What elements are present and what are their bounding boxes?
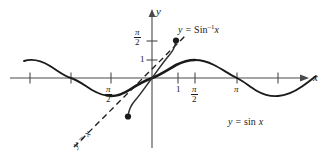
x-tick-label-neg-pi-over-2: − π 2 [99,85,112,104]
x-axis-label: x [313,72,318,83]
x-tick-pi-over-2-denominator: 2 [191,95,198,104]
y-axis-label: y [156,6,161,17]
sine-label-function: sin [244,116,256,127]
arcsin-curve-label: y=Sin–1x [178,24,219,35]
arcsin-label-argument: x [214,24,218,35]
x-tick-label-one: 1 [176,85,181,94]
x-tick-label-pi: π [234,85,239,94]
arcsin-label-equals: = [182,24,194,35]
graph-svg [0,0,327,156]
identity-line-y-equals-x [74,36,185,147]
sine-label-argument: x [256,116,263,127]
sine-curve-label: y=sinx [228,117,263,127]
y-tick-label-pi-over-2: π 2 [134,28,141,47]
x-tick-neg-pi-over-2-denominator: 2 [105,95,112,104]
figure-canvas: y x π 2 1 − π 2 1 π 2 π y=Sin–1x y=sinx … [0,0,327,156]
arcsin-endpoint-lower [125,113,131,119]
arcsin-endpoint-upper [173,37,179,43]
x-tick-label-pi-over-2: π 2 [191,85,198,104]
arcsin-label-function: Sin [194,24,207,35]
y-tick-pi-over-2-denominator: 2 [134,38,141,47]
sine-label-equals: = [232,116,244,127]
y-tick-label-one: 1 [140,55,145,64]
